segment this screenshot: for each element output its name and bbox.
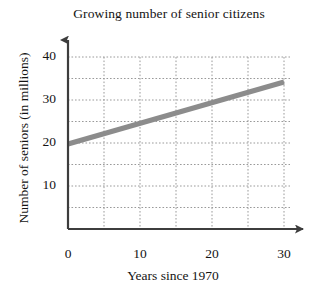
chart-figure: Growing number of senior citizens Number… xyxy=(0,0,316,295)
plot-area xyxy=(0,0,316,295)
